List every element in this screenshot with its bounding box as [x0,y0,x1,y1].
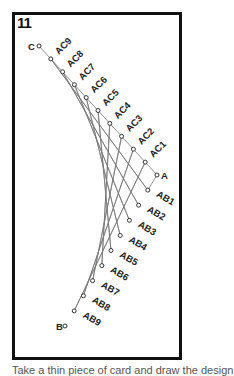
stitch-segment [93,136,122,280]
label-ac7: AC7 [76,61,97,82]
point-ac7 [72,83,76,87]
label-ab1: AB1 [155,188,178,207]
point-ac4 [108,121,112,125]
label-ab4: AB4 [127,234,150,253]
label-ac1: AC1 [147,138,169,160]
label-a: A [161,170,168,181]
label-ac5: AC5 [100,86,122,108]
point-ac6 [84,96,88,100]
point-ab7 [91,279,95,283]
point-ac8 [61,70,65,74]
point-ab9 [72,309,76,313]
label-ab5: AB5 [118,249,141,268]
point-ac5 [96,109,100,113]
label-ab8: AB8 [90,294,112,313]
point-ab6 [100,264,104,268]
label-ac6: AC6 [88,74,109,95]
point-a [155,173,159,177]
label-ac8: AC8 [64,48,85,69]
caption: Take a thin piece of card and draw the d… [12,364,233,376]
point-ab1 [146,188,150,192]
label-ab7: AB7 [100,279,122,298]
point-ac9 [49,57,53,61]
label-ab2: AB2 [146,203,168,222]
point-ab8 [81,294,85,298]
point-ac1 [143,160,147,164]
label-b: B [56,321,63,332]
point-ac2 [131,147,135,151]
label-ab3: AB3 [136,219,158,238]
point-ac3 [120,134,124,138]
label-ac3: AC3 [123,112,144,133]
point-c [37,44,41,48]
point-ab5 [109,249,113,253]
point-b [63,324,67,328]
point-ab2 [137,203,141,207]
label-ab9: AB9 [81,309,103,328]
point-ab4 [118,233,122,237]
label-ac9: AC9 [52,35,73,56]
label-ab6: AB6 [109,264,131,283]
stitch-segment [148,175,157,190]
label-c: C [28,41,35,52]
label-ac2: AC2 [135,125,156,146]
label-ac4: AC4 [111,99,133,121]
point-ab3 [127,218,131,222]
